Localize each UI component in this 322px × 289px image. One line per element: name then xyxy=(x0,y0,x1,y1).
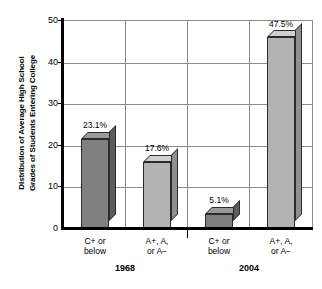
x-category-label-3-line-1: C+ or xyxy=(187,236,251,246)
y-axis-title-line-1: Distribution of Average High School xyxy=(16,56,27,189)
x-group-label-1968: 1968 xyxy=(80,263,170,273)
y-tick-label-10: 10 xyxy=(34,182,58,191)
x-category-label-1-line-1: C+ or xyxy=(63,236,127,246)
x-category-label-2: A+, A, or A− xyxy=(125,236,189,256)
bar-front-face-1 xyxy=(81,139,109,228)
bar-1968-a-plus-a-or-a-minus: 17.6% xyxy=(143,155,171,228)
gridline-vertical-1 xyxy=(125,21,126,228)
bar-side-face-4 xyxy=(295,23,302,221)
bar-1968-c-or-below: 23.1% xyxy=(81,132,109,228)
x-category-label-2-line-1: A+, A, xyxy=(125,236,189,246)
x-category-label-1-line-2: below xyxy=(63,246,127,256)
bar-2004-c-or-below: 5.1% xyxy=(205,207,233,228)
bar-side-face-1 xyxy=(109,125,116,221)
bar-2004-a-plus-a-or-a-minus: 47.5% xyxy=(267,30,295,228)
plot-area: 23.1% 17.6% 5.1% 47.5% xyxy=(63,20,313,228)
x-category-label-3-line-2: below xyxy=(187,246,251,256)
y-tick-label-50: 50 xyxy=(34,16,58,25)
y-axis-line xyxy=(61,18,64,230)
x-category-label-3: C+ or below xyxy=(187,236,251,256)
x-category-label-4-line-2: or A− xyxy=(249,246,313,256)
x-category-label-1: C+ or below xyxy=(63,236,127,256)
gridline-vertical-3 xyxy=(249,21,250,228)
bar-front-face-2 xyxy=(143,162,171,228)
y-tick-label-0: 0 xyxy=(34,224,58,233)
bar-chart-figure: Distribution of Average High School Grad… xyxy=(0,0,322,289)
bar-front-face-3 xyxy=(205,214,233,228)
gridline-vertical-2 xyxy=(187,21,188,228)
y-tick-label-20: 20 xyxy=(34,141,58,150)
x-group-label-2004: 2004 xyxy=(204,263,294,273)
bar-front-face-4 xyxy=(267,37,295,228)
bar-side-face-2 xyxy=(171,148,178,221)
y-tick-label-30: 30 xyxy=(34,99,58,108)
x-category-label-2-line-2: or A− xyxy=(125,246,189,256)
y-axis-tick-labels: 50 40 30 20 10 0 xyxy=(34,0,58,289)
y-tick-label-40: 40 xyxy=(34,58,58,67)
x-category-label-4-line-1: A+, A, xyxy=(249,236,313,246)
x-category-label-4: A+, A, or A− xyxy=(249,236,313,256)
